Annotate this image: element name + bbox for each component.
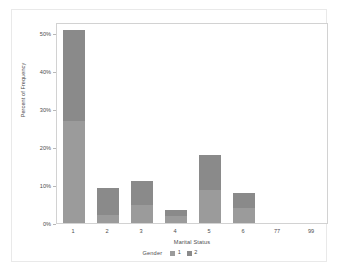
chart-frame: Percent of Frequency 0%10%20%30%40%50% 1… <box>11 9 327 262</box>
y-tick-label: 20% <box>40 145 51 151</box>
x-axis-title: Marital Status <box>56 239 328 245</box>
x-tick-label: 1 <box>71 228 74 234</box>
bar-3[interactable] <box>131 181 153 223</box>
bar-6[interactable] <box>233 193 255 223</box>
legend-entry-2[interactable]: 2 <box>187 250 198 256</box>
x-tick-label: 6 <box>241 228 244 234</box>
legend-swatch-1 <box>170 251 175 256</box>
y-tick-label: 40% <box>40 69 51 75</box>
legend-swatch-2 <box>187 251 192 256</box>
bar-segment-4-series-1[interactable] <box>165 216 187 223</box>
bar-segment-3-series-1[interactable] <box>131 205 153 223</box>
legend-label-1: 1 <box>178 250 181 256</box>
x-tick-label: 77 <box>274 228 280 234</box>
x-tick-label: 5 <box>207 228 210 234</box>
y-tick-label: 50% <box>40 31 51 37</box>
bar-segment-5-series-1[interactable] <box>199 190 221 223</box>
legend: Gender 12 <box>12 250 328 256</box>
bar-segment-1-series-1[interactable] <box>63 121 85 223</box>
x-tick-label: 2 <box>105 228 108 234</box>
y-axis-title: Percent of Frequency <box>20 15 26 165</box>
bar-segment-1-series-2[interactable] <box>63 30 85 121</box>
legend-label-2: 2 <box>194 250 197 256</box>
plot-area <box>56 23 328 224</box>
y-axis: Percent of Frequency 0%10%20%30%40%50% <box>12 23 56 224</box>
y-tick-label: 30% <box>40 107 51 113</box>
bar-1[interactable] <box>63 30 85 223</box>
x-tick-label: 4 <box>173 228 176 234</box>
bar-segment-2-series-2[interactable] <box>97 188 119 215</box>
y-tick-label: 0% <box>43 221 51 227</box>
bar-2[interactable] <box>97 188 119 223</box>
legend-title: Gender <box>143 250 163 256</box>
x-tick-label: 3 <box>139 228 142 234</box>
legend-entry-1[interactable]: 1 <box>170 250 181 256</box>
legend-entries: 12 <box>170 250 197 256</box>
bar-segment-6-series-1[interactable] <box>233 208 255 223</box>
bar-segment-6-series-2[interactable] <box>233 193 255 209</box>
x-tick-label: 99 <box>308 228 314 234</box>
bar-4[interactable] <box>165 210 187 223</box>
bar-segment-2-series-1[interactable] <box>97 215 119 223</box>
bar-segment-4-series-2[interactable] <box>165 210 187 216</box>
bar-segment-3-series-2[interactable] <box>131 181 153 205</box>
bar-segment-5-series-2[interactable] <box>199 155 221 191</box>
bar-5[interactable] <box>199 155 221 223</box>
y-tick-label: 10% <box>40 183 51 189</box>
